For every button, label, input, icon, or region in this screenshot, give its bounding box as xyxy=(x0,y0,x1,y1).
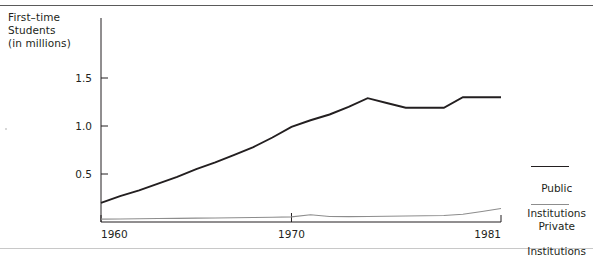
legend-swatch-private-icon xyxy=(531,204,569,205)
legend-label-private-line2: Institutions xyxy=(527,245,586,257)
chart-series xyxy=(101,97,501,219)
svg-text:1970: 1970 xyxy=(278,228,305,240)
svg-text:1960: 1960 xyxy=(101,228,128,240)
legend-label-private-line1: Private xyxy=(538,220,575,232)
legend-item-private: Private Institutions xyxy=(511,179,589,259)
chart-axes xyxy=(101,18,501,222)
svg-text:1.5: 1.5 xyxy=(75,72,92,84)
svg-text:0.5: 0.5 xyxy=(75,168,92,180)
chart-tick-labels: 0.51.01.5196019701981 xyxy=(75,72,501,240)
svg-text:1.0: 1.0 xyxy=(75,120,92,132)
legend-swatch-public-icon xyxy=(531,166,569,167)
svg-text:1981: 1981 xyxy=(474,228,501,240)
